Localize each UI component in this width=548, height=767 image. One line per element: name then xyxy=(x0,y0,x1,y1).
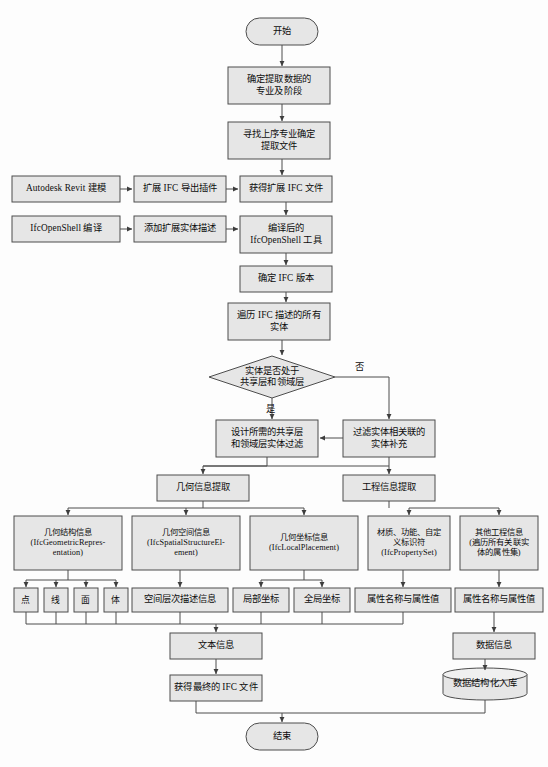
node-line xyxy=(44,588,68,612)
edge-finalifc-end xyxy=(196,701,282,722)
edge-database-end xyxy=(282,700,485,713)
node-globalcoord xyxy=(294,588,350,612)
node-revit xyxy=(12,176,120,202)
edge-decision-supplement xyxy=(335,377,389,419)
node-ifcfile xyxy=(240,176,332,202)
node-solid xyxy=(104,588,128,612)
node-propval1 xyxy=(355,588,451,612)
node-upstream xyxy=(228,122,330,159)
node-ifcopenshell xyxy=(12,216,120,242)
node-finalifc xyxy=(170,675,262,701)
node-version xyxy=(240,266,332,292)
node-decision xyxy=(209,356,335,398)
node-propset xyxy=(368,516,450,570)
node-enginfo xyxy=(343,475,435,501)
node-entitydesc xyxy=(134,216,226,242)
edge-label-no-branch: 否 xyxy=(355,359,364,373)
node-point xyxy=(14,588,38,612)
node-geocoord xyxy=(250,516,358,570)
node-plugin xyxy=(134,176,226,202)
node-scope xyxy=(228,67,330,104)
node-geospatial xyxy=(132,516,240,570)
node-propval2 xyxy=(455,588,543,612)
node-start xyxy=(246,18,318,45)
node-face xyxy=(74,588,98,612)
flowchart-canvas: 开始确定提取数据的 专业及阶段寻找上序专业确定 提取文件Autodesk Rev… xyxy=(0,0,548,767)
node-shapes-group xyxy=(12,18,543,750)
node-geoinfo xyxy=(157,475,249,501)
node-localcoord xyxy=(233,588,289,612)
node-spatiallevel xyxy=(132,588,228,612)
flowchart-svg xyxy=(0,0,548,767)
node-traverse xyxy=(228,303,330,340)
node-otherinfo xyxy=(460,516,538,570)
node-textinfo xyxy=(170,633,262,659)
edge-label-yes-branch: 是 xyxy=(266,401,275,415)
node-filter xyxy=(216,420,318,457)
node-supplement xyxy=(343,420,435,457)
node-geostruct xyxy=(14,516,122,570)
node-tool xyxy=(240,216,332,253)
node-datainfo xyxy=(453,633,535,659)
node-database xyxy=(443,668,527,700)
node-end xyxy=(246,723,318,750)
